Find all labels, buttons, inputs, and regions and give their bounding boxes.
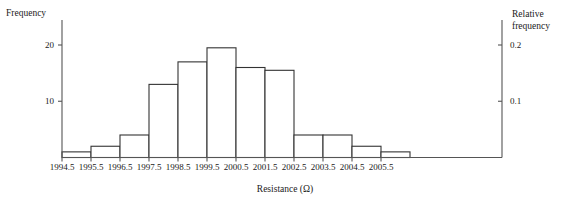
y-axis-tick-label: 20 bbox=[34, 40, 54, 50]
histogram-bar bbox=[236, 68, 265, 158]
histogram-svg bbox=[0, 0, 570, 210]
bars-group bbox=[62, 48, 410, 158]
histogram-bar bbox=[149, 84, 178, 157]
histogram-figure: Frequency Relative frequency Resistance … bbox=[0, 0, 570, 210]
histogram-bar bbox=[294, 135, 323, 158]
x-axis-tick-label: 1999.5 bbox=[195, 162, 220, 172]
histogram-bar bbox=[323, 135, 352, 158]
histogram-bar bbox=[265, 70, 294, 157]
histogram-bar bbox=[381, 152, 410, 158]
x-axis-tick-label: 2004.5 bbox=[340, 162, 365, 172]
x-axis-tick-label: 1997.5 bbox=[137, 162, 162, 172]
plot-area bbox=[0, 0, 570, 210]
histogram-bar bbox=[352, 146, 381, 157]
x-axis-tick-label: 2000.5 bbox=[224, 162, 249, 172]
x-axis-tick-label: 2003.5 bbox=[311, 162, 336, 172]
y2-axis-tick-label: 0.2 bbox=[510, 40, 521, 50]
x-axis-tick-label: 1994.5 bbox=[50, 162, 75, 172]
x-axis-tick-label: 2001.5 bbox=[253, 162, 278, 172]
x-axis-tick-label: 2002.5 bbox=[282, 162, 307, 172]
x-axis-tick-label: 2005.5 bbox=[369, 162, 394, 172]
histogram-bar bbox=[62, 152, 91, 158]
x-axis-tick-label: 1996.5 bbox=[108, 162, 133, 172]
histogram-bar bbox=[120, 135, 149, 158]
y-axis-tick-label: 10 bbox=[34, 96, 54, 106]
x-axis-tick-label: 1998.5 bbox=[166, 162, 191, 172]
histogram-bar bbox=[91, 146, 120, 157]
histogram-bar bbox=[178, 62, 207, 158]
histogram-bar bbox=[207, 48, 236, 158]
y2-axis-tick-label: 0.1 bbox=[510, 96, 521, 106]
x-axis-tick-label: 1995.5 bbox=[79, 162, 104, 172]
